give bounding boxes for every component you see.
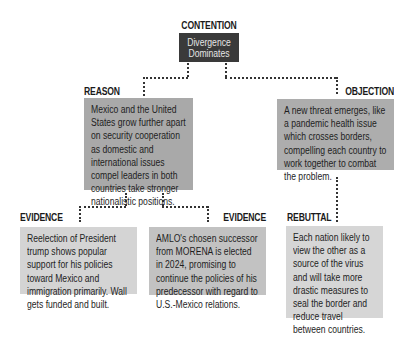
- contention-text: Divergence Dominates: [185, 37, 233, 59]
- connector-contention-reason-v1: [187, 63, 189, 77]
- evidence1-text: Reelection of President trump shows popu…: [27, 232, 130, 311]
- connector-contention-objection-h: [225, 77, 336, 79]
- objection-box: A new threat emerges, like a pandemic he…: [277, 99, 394, 170]
- contention-box: Divergence Dominates: [179, 33, 239, 62]
- evidence2-box: AMLO's chosen successor from MORENA is e…: [149, 227, 266, 295]
- rebuttal-box: Each nation likely to view the other as …: [286, 226, 383, 318]
- connector-objection-rebuttal: [336, 177, 338, 222]
- connector-contention-objection-v1: [225, 63, 227, 77]
- connector-contention-reason-v2: [143, 77, 145, 96]
- evidence1-label: EVIDENCE: [20, 211, 63, 223]
- evidence2-label: EVIDENCE: [220, 211, 266, 223]
- connector-reason-evidence2-v1: [162, 193, 164, 206]
- evidence2-text: AMLO's chosen successor from MORENA is e…: [156, 232, 259, 311]
- rebuttal-text: Each nation likely to view the other as …: [293, 231, 376, 337]
- reason-label: REASON: [84, 85, 120, 97]
- connector-contention-reason-h: [143, 77, 188, 79]
- connector-reason-evidence1-h: [79, 206, 126, 208]
- connector-reason-evidence1-v2: [79, 206, 81, 222]
- connector-reason-evidence1-v1: [125, 193, 127, 206]
- objection-label: OBJECTION: [342, 85, 394, 97]
- contention-label: CONTENTION: [177, 19, 241, 31]
- reason-text: Mexico and the United States grow furthe…: [91, 103, 186, 209]
- objection-text: A new threat emerges, like a pandemic he…: [284, 104, 387, 183]
- rebuttal-label: REBUTTAL: [287, 211, 331, 223]
- evidence1-box: Reelection of President trump shows popu…: [20, 227, 137, 294]
- connector-reason-evidence2-h: [162, 206, 208, 208]
- reason-box: Mexico and the United States grow furthe…: [84, 98, 193, 190]
- connector-contention-objection-v2: [336, 77, 338, 94]
- connector-reason-evidence2-v2: [207, 206, 209, 222]
